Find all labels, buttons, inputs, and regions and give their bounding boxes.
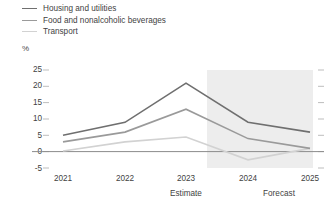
y-axis-ticks-right [318,70,324,168]
x-tick-label-2023: 2023 [166,174,206,183]
y-axis-ticks [43,70,49,168]
x-axis-note-forecast: Forecast [253,189,305,198]
x-tick-label-2022: 2022 [105,174,145,183]
x-tick-label-2025: 2025 [290,174,330,183]
line-chart: Housing and utilities Food and nonalcoho… [0,0,336,209]
x-tick-label-2024: 2024 [228,174,268,183]
x-tick-label-2021: 2021 [43,174,83,183]
forecast-shaded-band [207,70,313,168]
x-axis-note-estimate: Estimate [160,189,212,198]
